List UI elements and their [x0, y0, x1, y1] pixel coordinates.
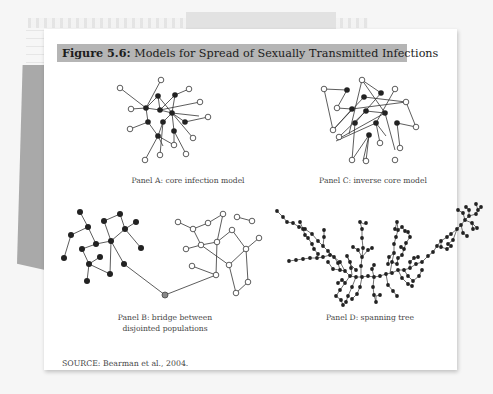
panel-b-network [61, 209, 262, 298]
panel-b-caption-line2: disjointed populations [100, 323, 230, 334]
panel-d-nodes [275, 202, 483, 307]
panel-a-network [117, 77, 211, 163]
panel-c-network [321, 77, 419, 164]
network-diagrams [0, 0, 493, 394]
panel-a-caption: Panel A: core infection model [128, 175, 248, 186]
source-citation: SOURCE: Bearman et al., 2004. [62, 359, 188, 368]
panel-d-caption: Panel D: spanning tree [310, 312, 430, 323]
panel-c-caption: Panel C: inverse core model [313, 175, 433, 186]
panel-d-network [277, 204, 481, 305]
panel-b-caption-line1: Panel B: bridge between [100, 312, 230, 323]
